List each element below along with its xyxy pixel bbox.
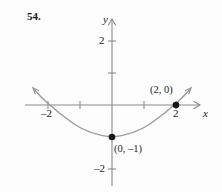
x-axis-label: x [203, 108, 208, 119]
y-tick-label-minus2: –2 [94, 163, 105, 174]
coordinate-plot [0, 0, 222, 192]
x-tick-label-2: 2 [173, 108, 179, 119]
figure-container: 54. y x –2 2 2 –2 (0, –1) (2, 0) [0, 0, 222, 192]
point-vertex [109, 134, 116, 141]
vertex-annotation: (0, –1) [114, 143, 142, 154]
root-annotation: (2, 0) [150, 84, 173, 95]
y-tick-label-2: 2 [99, 35, 105, 46]
y-axis-label: y [103, 14, 108, 25]
x-tick-label-minus2: –2 [41, 108, 52, 119]
